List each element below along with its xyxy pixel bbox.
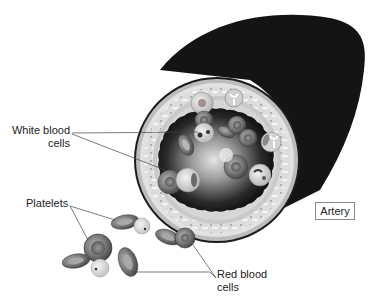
platelet: [134, 218, 150, 234]
rbc-leader-line-2: [193, 245, 216, 278]
artery-label: Artery: [315, 202, 355, 220]
red-blood-cells-label-line2: cells: [217, 281, 267, 294]
red-blood-cell: [114, 245, 141, 279]
white-blood-cell: [176, 168, 200, 192]
artery-diagram: White blood cells Platelets Red blood ce…: [0, 0, 372, 304]
white-blood-cells-label-line1: White blood: [0, 124, 70, 137]
platelet: [91, 259, 109, 277]
red-blood-cell: [175, 228, 195, 248]
white-blood-cell: [261, 132, 281, 152]
white-blood-cell: [191, 92, 213, 114]
platelet-leader-line-1: [70, 206, 115, 220]
white-blood-cells-label: White blood cells: [0, 124, 70, 150]
white-blood-cell: [249, 164, 271, 186]
illustration: [0, 0, 372, 304]
white-blood-cells-label-line2: cells: [0, 137, 70, 150]
platelets-label: Platelets: [26, 197, 68, 210]
red-blood-cells-label: Red blood cells: [217, 268, 267, 294]
red-blood-cells-label-line1: Red blood: [217, 268, 267, 281]
white-blood-cell: [194, 123, 214, 143]
rbc-leader-line-1: [132, 272, 216, 278]
white-blood-cell: [225, 89, 243, 107]
artery-cross-section: [134, 77, 300, 243]
